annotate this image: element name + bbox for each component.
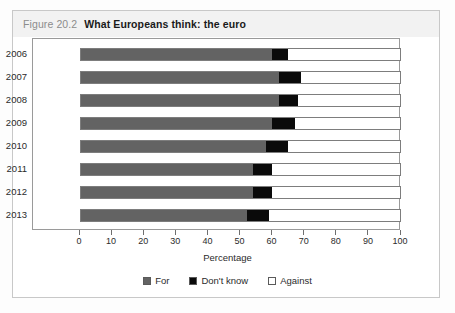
for-swatch-icon [143, 277, 151, 285]
x-tick-label-30: 30 [170, 236, 180, 246]
x-tick-40 [207, 230, 208, 235]
x-tick-label-100: 100 [392, 236, 407, 246]
bar-row [80, 112, 401, 135]
stacked-bar-2008 [80, 94, 401, 107]
x-tick-label-20: 20 [138, 236, 148, 246]
x-tick-60 [271, 230, 272, 235]
against-swatch-icon [268, 277, 276, 285]
stacked-bar-2013 [80, 209, 401, 222]
y-axis-label-2012: 2012 [0, 180, 32, 203]
bar-segment-against-2007 [301, 72, 400, 83]
y-axis-label-2007: 2007 [0, 65, 32, 88]
legend-item-dont-know: Don't know [189, 275, 248, 286]
x-tick-0 [79, 230, 80, 235]
bar-segment-against-2008 [298, 95, 400, 106]
chart-legend: For Don't know Against [0, 275, 455, 286]
bar-segment-for-2006 [81, 49, 272, 60]
figure-title: What Europeans think: the euro [84, 18, 246, 30]
x-tick-label-70: 70 [299, 236, 309, 246]
bar-segment-for-2011 [81, 164, 253, 175]
bar-row [80, 89, 401, 112]
bar-segment-for-2010 [81, 141, 266, 152]
bar-segment-against-2006 [288, 49, 400, 60]
stacked-bar-2010 [80, 140, 401, 153]
x-axis-title: Percentage [0, 252, 455, 263]
x-tick-label-40: 40 [202, 236, 212, 246]
x-tick-20 [143, 230, 144, 235]
bar-segment-for-2008 [81, 95, 279, 106]
x-tick-100 [400, 230, 401, 235]
plot-area [32, 38, 400, 230]
bar-segment-against-2011 [272, 164, 400, 175]
bar-segment-against-2013 [269, 210, 400, 221]
bar-segment-for-2007 [81, 72, 279, 83]
x-tick-30 [175, 230, 176, 235]
x-tick-80 [335, 230, 336, 235]
bar-row [80, 135, 401, 158]
y-axis-label-2013: 2013 [0, 203, 32, 226]
x-tick-label-60: 60 [267, 236, 277, 246]
legend-item-for: For [143, 275, 169, 286]
figure-page: Figure 20.2 What Europeans think: the eu… [0, 0, 455, 313]
bar-row [80, 158, 401, 181]
bar-row [80, 66, 401, 89]
x-tick-label-10: 10 [106, 236, 116, 246]
bar-segment-dont-know-2008 [279, 95, 298, 106]
y-axis-label-2010: 2010 [0, 134, 32, 157]
bar-segment-against-2012 [272, 187, 400, 198]
bar-segment-dont-know-2007 [279, 72, 301, 83]
y-axis-label-2008: 2008 [0, 88, 32, 111]
bar-segment-dont-know-2010 [266, 141, 288, 152]
y-axis-label-2006: 2006 [0, 42, 32, 65]
x-tick-label-50: 50 [234, 236, 244, 246]
stacked-bar-2009 [80, 117, 401, 130]
bar-segment-dont-know-2009 [272, 118, 294, 129]
legend-label-dont-know: Don't know [201, 275, 248, 286]
x-axis-tick-labels: 0102030405060708090100 [79, 236, 400, 250]
legend-label-against: Against [280, 275, 312, 286]
bar-row [80, 204, 401, 227]
x-tick-90 [367, 230, 368, 235]
dont-know-swatch-icon [189, 277, 197, 285]
bar-row [80, 43, 401, 66]
x-tick-label-0: 0 [76, 236, 81, 246]
bar-segment-for-2012 [81, 187, 253, 198]
bar-segment-dont-know-2013 [247, 210, 269, 221]
x-tick-label-80: 80 [331, 236, 341, 246]
stacked-bar-2006 [80, 48, 401, 61]
y-axis-label-2011: 2011 [0, 157, 32, 180]
stacked-bar-2007 [80, 71, 401, 84]
x-tick-10 [111, 230, 112, 235]
bar-segment-against-2010 [288, 141, 400, 152]
bar-segment-for-2009 [81, 118, 272, 129]
bar-segment-for-2013 [81, 210, 247, 221]
x-tick-label-90: 90 [363, 236, 373, 246]
legend-label-for: For [155, 275, 169, 286]
bar-segment-against-2009 [295, 118, 400, 129]
stacked-bar-2011 [80, 163, 401, 176]
bar-segment-dont-know-2006 [272, 49, 288, 60]
y-axis-year-labels: 20062007200820092010201120122013 [0, 38, 32, 230]
legend-item-against: Against [268, 275, 312, 286]
figure-title-band: Figure 20.2 What Europeans think: the eu… [13, 11, 439, 37]
y-axis-label-2009: 2009 [0, 111, 32, 134]
bars-container [80, 43, 401, 227]
x-tick-50 [239, 230, 240, 235]
bar-segment-dont-know-2011 [253, 164, 272, 175]
bar-row [80, 181, 401, 204]
figure-number: Figure 20.2 [23, 18, 77, 30]
x-tick-70 [303, 230, 304, 235]
bar-segment-dont-know-2012 [253, 187, 272, 198]
stacked-bar-2012 [80, 186, 401, 199]
